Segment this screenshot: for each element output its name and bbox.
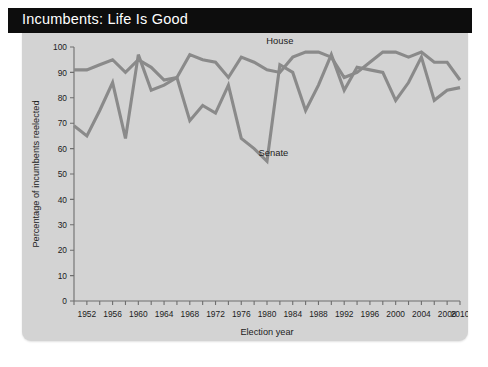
x-axis-tick-label: 1968 <box>180 309 199 319</box>
x-axis-tick-label: 2010 <box>451 309 468 319</box>
x-axis-tick-label: 1988 <box>309 309 328 319</box>
x-axis-tick-label: 1972 <box>206 309 225 319</box>
series-label-senate: Senate <box>259 147 289 158</box>
y-axis-tick-label: 70 <box>58 118 68 128</box>
x-axis-tick-label: 1976 <box>232 309 251 319</box>
y-axis-tick-label: 60 <box>58 144 68 154</box>
x-axis-tick-label: 2000 <box>386 309 405 319</box>
x-axis-tick-label: 1996 <box>361 309 380 319</box>
page-title: Incumbents: Life Is Good <box>22 11 188 27</box>
chart-screenshot: Incumbents: Life Is Good 010203040506070… <box>0 0 488 367</box>
y-axis-tick-label: 40 <box>58 195 68 205</box>
title-banner: Incumbents: Life Is Good <box>8 8 472 33</box>
y-axis-tick-label: 50 <box>58 169 68 179</box>
series-line-house <box>74 52 460 80</box>
line-chart: 0102030405060708090100Percentage of incu… <box>22 33 468 341</box>
y-axis-tick-label: 100 <box>53 42 67 52</box>
x-axis-tick-label: 2004 <box>412 309 431 319</box>
y-axis-tick-label: 30 <box>58 220 68 230</box>
x-axis-tick-label: 1956 <box>103 309 122 319</box>
x-axis-tick-label: 1964 <box>155 309 174 319</box>
y-axis-title: Percentage of incumbents reelected <box>31 100 41 247</box>
x-axis-tick-label: 1980 <box>258 309 277 319</box>
chart-panel: 0102030405060708090100Percentage of incu… <box>22 33 468 341</box>
y-axis-tick-label: 10 <box>58 271 68 281</box>
series-label-house: House <box>266 35 293 46</box>
y-axis-tick-label: 20 <box>58 245 68 255</box>
y-axis-tick-label: 80 <box>58 93 68 103</box>
y-axis-tick-label: 0 <box>62 296 67 306</box>
x-axis-title: Election year <box>240 327 293 337</box>
x-axis-tick-label: 1952 <box>78 309 97 319</box>
y-axis-tick-label: 90 <box>58 68 68 78</box>
x-axis-tick-label: 1992 <box>335 309 354 319</box>
x-axis-tick-label: 1960 <box>129 309 148 319</box>
x-axis-tick-label: 1984 <box>283 309 302 319</box>
